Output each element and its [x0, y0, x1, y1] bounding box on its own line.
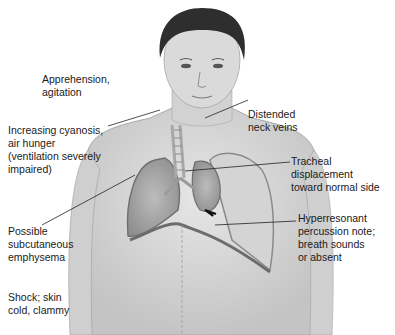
label-apprehension: Apprehension, agitation: [42, 73, 110, 99]
label-shock: Shock; skin cold, clammy: [8, 291, 69, 317]
label-emphysema: Possible subcutaneous emphysema: [8, 225, 73, 264]
label-neck-veins: Distended neck veins: [248, 108, 298, 134]
label-tracheal: Tracheal displacement toward normal side: [291, 155, 395, 194]
label-hyperresonant: Hyperresonant percussion note; breath so…: [298, 212, 375, 264]
label-cyanosis: Increasing cyanosis, air hunger (ventila…: [8, 124, 103, 176]
